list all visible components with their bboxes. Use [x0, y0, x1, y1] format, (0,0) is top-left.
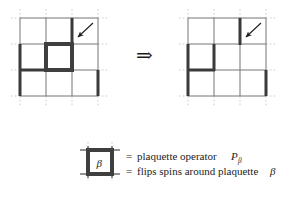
legend-line-operator-math-base: P — [230, 150, 238, 162]
plaquette-operator-figure: ⇒ — [0, 0, 296, 198]
legend-line-action: = flips spins around plaquette β — [126, 165, 276, 177]
implication-symbol: ⇒ — [136, 44, 153, 66]
legend-line-action-equals: = — [126, 165, 132, 177]
figure-root: ⇒ — [0, 0, 296, 198]
implication-arrow: ⇒ — [136, 44, 153, 66]
plaquette-operator-icon: β — [80, 142, 120, 182]
legend-line-operator-text: plaquette operator — [137, 150, 217, 162]
legend-line-operator-equals: = — [126, 150, 132, 162]
legend-line-action-text: flips spins around plaquette — [137, 165, 258, 177]
legend-line-operator-math-sub: β — [237, 156, 242, 165]
legend-icon-beta-label: β — [96, 157, 103, 169]
legend-line-action-math-sub: β — [269, 165, 276, 177]
